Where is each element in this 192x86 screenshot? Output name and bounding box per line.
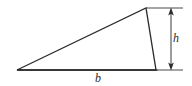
triangle-figure: h b <box>0 0 192 86</box>
height-label: h <box>173 32 179 44</box>
triangle-outline <box>17 8 156 70</box>
base-label: b <box>95 72 101 84</box>
